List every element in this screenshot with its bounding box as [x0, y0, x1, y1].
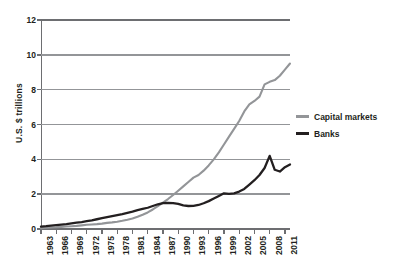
x-tick-label-1978: 1978: [121, 236, 131, 255]
legend-item-banks[interactable]: Banks: [296, 128, 377, 139]
x-tick-label-1993: 1993: [197, 236, 207, 255]
x-tick-label-1963: 1963: [45, 236, 55, 255]
series-lines: [41, 20, 290, 229]
x-tick-label-1981: 1981: [136, 236, 146, 255]
legend-label: Capital markets: [314, 112, 377, 122]
x-tick-mark-1984: [147, 229, 148, 234]
x-tick-mark-1987: [162, 229, 163, 234]
x-tick-mark-1990: [178, 229, 179, 234]
x-tick-label-1969: 1969: [75, 236, 85, 255]
x-tick-mark-1975: [101, 229, 102, 234]
x-tick-label-2011: 2011: [289, 236, 299, 254]
x-tick-label-1975: 1975: [106, 236, 116, 255]
chart-container: U.S. $ trillions 024681012 1963196619691…: [0, 0, 396, 278]
x-tick-mark-2002: [239, 229, 240, 234]
y-tick-label-8: 8: [10, 85, 36, 95]
x-tick-mark-1963: [40, 229, 41, 234]
x-tick-label-2005: 2005: [258, 236, 268, 255]
x-tick-label-1990: 1990: [182, 236, 192, 255]
legend-item-capital-markets[interactable]: Capital markets: [296, 111, 377, 122]
x-tick-mark-1966: [56, 229, 57, 234]
x-tick-mark-1972: [86, 229, 87, 234]
x-tick-label-1999: 1999: [228, 236, 238, 255]
y-tick-label-6: 6: [10, 120, 36, 130]
legend-swatch-icon: [296, 115, 309, 118]
legend-swatch-icon: [296, 132, 309, 135]
x-tick-mark-1993: [193, 229, 194, 234]
x-tick-label-2008: 2008: [274, 236, 284, 255]
legend-label: Banks: [314, 129, 340, 139]
y-tick-label-0: 0: [10, 224, 36, 234]
legend: Capital marketsBanks: [296, 111, 377, 145]
y-tick-label-4: 4: [10, 154, 36, 164]
y-tick-label-10: 10: [10, 50, 36, 60]
series-line-banks: [41, 156, 290, 227]
x-tick-label-1966: 1966: [60, 236, 70, 255]
x-tick-mark-1981: [132, 229, 133, 234]
x-tick-mark-1999: [223, 229, 224, 234]
plot-area: 024681012 196319661969197219751978198119…: [41, 20, 290, 229]
x-tick-mark-2011: [284, 229, 285, 234]
x-tick-mark-1969: [71, 229, 72, 234]
x-tick-mark-1978: [117, 229, 118, 234]
x-tick-label-2002: 2002: [243, 236, 253, 255]
x-tick-label-1972: 1972: [91, 236, 101, 255]
x-tick-label-1987: 1987: [167, 236, 177, 255]
y-tick-label-2: 2: [10, 189, 36, 199]
x-tick-label-1996: 1996: [213, 236, 223, 255]
x-tick-label-1984: 1984: [152, 236, 162, 255]
y-tick-label-12: 12: [10, 15, 36, 25]
x-tick-mark-2008: [269, 229, 270, 234]
x-tick-mark-2005: [254, 229, 255, 234]
x-tick-mark-1996: [208, 229, 209, 234]
